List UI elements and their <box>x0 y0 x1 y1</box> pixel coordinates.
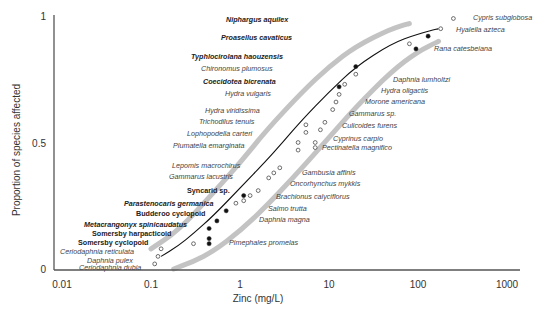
species-label: Pectinatella magnifico <box>322 143 392 152</box>
open-data-point <box>242 199 246 203</box>
x-tick-label: 1000 <box>496 279 519 290</box>
open-data-point <box>313 146 317 150</box>
filled-data-point <box>354 65 358 69</box>
species-label: Cyprinus carpio <box>333 134 383 143</box>
species-label: Ceriodaphnia dubia <box>79 263 141 272</box>
open-data-point <box>331 108 335 112</box>
open-data-point <box>354 72 358 76</box>
species-label: Daphnia lumholtzi <box>393 75 451 84</box>
open-data-point <box>343 82 347 86</box>
species-label: Hydra viridissima <box>205 106 260 115</box>
species-label: Gammarus sp. <box>349 109 396 118</box>
species-label: Lepomis macrochirus <box>172 161 241 170</box>
y-tick-label: 0 <box>40 264 46 275</box>
species-label: Rana catesbeiana <box>434 44 492 53</box>
filled-data-point <box>207 237 211 241</box>
species-label: Lophopodella carteri <box>187 129 253 138</box>
species-label: Brachionus calyciflorus <box>276 192 350 201</box>
species-label: Pimephales promelas <box>229 238 299 247</box>
species-label: Morone americana <box>365 97 425 106</box>
species-label: Plumatella emarginata <box>173 141 245 150</box>
species-label: Chironomus plumosus <box>201 64 273 73</box>
open-data-point <box>234 201 238 205</box>
open-data-point <box>439 27 443 31</box>
open-data-point <box>248 194 252 198</box>
species-sensitivity-chart: 0.010.1110100100000.51 Zinc (mg/L) Propo… <box>0 0 542 312</box>
open-data-point <box>267 176 271 180</box>
species-label: Hydra oligactis <box>381 86 429 95</box>
open-data-point <box>337 93 341 97</box>
species-label: Gammarus lacustris <box>169 172 233 181</box>
y-axis-title: Proportion of species affected <box>11 84 22 216</box>
open-data-point <box>272 171 276 175</box>
open-data-point <box>452 17 456 21</box>
x-tick-label: 100 <box>410 279 427 290</box>
filled-data-point <box>207 226 211 230</box>
species-label: Gambusia affinis <box>302 168 356 177</box>
x-tick-label: 0.1 <box>144 279 158 290</box>
filled-data-point <box>414 47 418 51</box>
species-label: Cypris subglobosa <box>473 13 532 22</box>
open-data-point <box>304 131 308 135</box>
y-tick-label: 0.5 <box>32 138 46 149</box>
species-label: Budderoo cyclopoid <box>136 209 205 218</box>
species-label: Niphargus aquilex <box>226 15 289 24</box>
filled-data-point <box>337 85 341 89</box>
open-data-point <box>296 141 300 145</box>
open-data-point <box>313 141 317 145</box>
species-label: Proasellus cavaticus <box>221 33 292 42</box>
filled-data-point <box>207 242 211 246</box>
open-data-point <box>408 42 412 46</box>
species-label: Somersby cyclopoid <box>78 238 148 247</box>
species-label: Daphnia magna <box>259 215 310 224</box>
open-data-point <box>256 189 260 193</box>
species-label: Metacrangonyx spinicaudatus <box>84 220 187 229</box>
filled-data-point <box>215 219 219 223</box>
species-label: Typhlocirolana haouzensis <box>191 52 283 61</box>
open-data-point <box>304 123 308 127</box>
open-data-point <box>334 100 338 104</box>
filled-data-point <box>426 34 430 38</box>
filled-data-point <box>224 209 228 213</box>
species-label: Oncorhynchus mykkis <box>290 179 361 188</box>
open-data-point <box>159 247 163 251</box>
x-tick-label: 0.01 <box>52 279 72 290</box>
open-data-point <box>192 242 196 246</box>
species-label: Ceriodaphnia reticulata <box>60 247 134 256</box>
species-label: Coecidotea bicrenata <box>203 77 276 86</box>
species-label: Parastenocaris germanica <box>124 199 214 208</box>
species-label: Hyalella azteca <box>456 25 505 34</box>
open-data-point <box>296 148 300 152</box>
open-data-point <box>278 166 282 170</box>
open-data-point <box>153 262 157 266</box>
open-data-point <box>156 255 160 259</box>
species-label: Trichodilus tenuis <box>199 117 255 126</box>
x-tick-label: 1 <box>237 279 243 290</box>
species-label: Syncarid sp. <box>187 186 230 195</box>
species-label: Hydra vulgaris <box>225 89 271 98</box>
species-label: Culicoides furens <box>342 121 398 130</box>
y-tick-label: 1 <box>40 11 46 22</box>
open-data-point <box>319 128 323 132</box>
x-tick-label: 10 <box>323 279 335 290</box>
species-label: Salmo trutta <box>268 204 307 213</box>
x-axis-title: Zinc (mg/L) <box>233 293 284 304</box>
filled-data-point <box>242 194 246 198</box>
species-label: Somersby harpacticoid <box>92 229 172 238</box>
open-data-point <box>323 120 327 124</box>
